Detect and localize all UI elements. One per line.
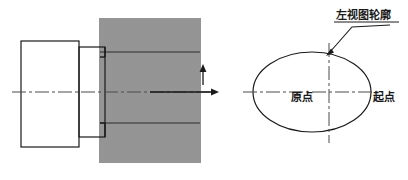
hatch-region [100, 18, 200, 163]
workpiece-body-rect [21, 41, 79, 147]
contour-leader-line [326, 25, 390, 56]
tool-direction-arrow [200, 64, 207, 85]
technical-diagram: 左视图轮廓 原点 起点 [0, 0, 408, 180]
start-point-label: 起点 [372, 90, 395, 104]
right-view-group [243, 22, 399, 143]
left-view-group [12, 18, 219, 163]
origin-label: 原点 [291, 90, 313, 104]
diagram-canvas: 左视图轮廓 原点 起点 [0, 0, 408, 180]
contour-label: 左视图轮廓 [335, 8, 391, 22]
